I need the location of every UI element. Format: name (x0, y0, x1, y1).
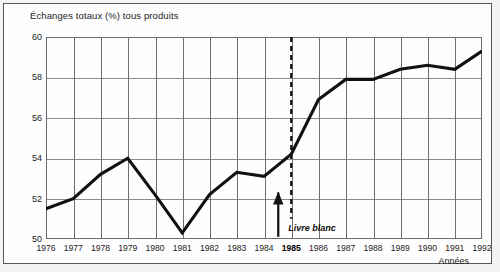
y-axis-tick-labels: 505254565860 (20, 37, 42, 239)
x-tick-label: 1992 (472, 243, 491, 253)
x-tick-label: 1980 (145, 243, 164, 253)
y-tick-label: 54 (32, 153, 42, 163)
x-tick-label: 1982 (200, 243, 219, 253)
x-tick-label: 1981 (173, 243, 192, 253)
x-tick-label: 1976 (36, 243, 55, 253)
figure-background: Échanges totaux (%) tous produits 505254… (0, 0, 500, 272)
data-series-line (46, 51, 482, 233)
livre-blanc-arrow-icon (273, 192, 283, 237)
x-tick-label: 1983 (227, 243, 246, 253)
x-tick-label: 1990 (418, 243, 437, 253)
livre-blanc-annotation-label: Livre blanc (288, 223, 336, 233)
y-tick-label: 58 (32, 72, 42, 82)
x-tick-label: 1988 (363, 243, 382, 253)
x-tick-label: 1987 (336, 243, 355, 253)
x-tick-label: 1984 (254, 243, 273, 253)
chart-svg (46, 37, 482, 239)
x-axis-title: Années (438, 256, 469, 266)
x-tick-label: 1991 (445, 243, 464, 253)
chart-title: Échanges totaux (%) tous produits (30, 10, 179, 21)
x-tick-label: 1989 (391, 243, 410, 253)
x-tick-label: 1986 (309, 243, 328, 253)
x-tick-label: 1985 (282, 243, 301, 253)
x-tick-label: 1979 (118, 243, 137, 253)
y-tick-label: 56 (32, 113, 42, 123)
y-tick-label: 60 (32, 32, 42, 42)
x-tick-label: 1978 (91, 243, 110, 253)
data-line-layer (46, 37, 482, 239)
figure-frame: Échanges totaux (%) tous produits 505254… (3, 3, 492, 264)
y-tick-label: 52 (32, 194, 42, 204)
x-tick-label: 1977 (64, 243, 83, 253)
